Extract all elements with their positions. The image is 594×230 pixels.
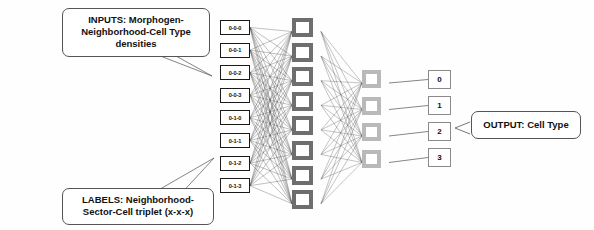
input-node-0-1-1: 0-1-1 [220,133,250,148]
input-node-0-0-2: 0-0-2 [220,65,250,80]
callout-output: OUTPUT: Cell Type [471,111,581,139]
callout-labels-line1: LABELS: Neighborhood- [82,194,194,205]
hidden1-node [292,190,313,209]
callout-labels-line2: Sector-Cell triplet (x-x-x) [69,206,207,218]
output-node-2: 2 [428,122,451,141]
hidden1-node [292,18,313,37]
output-node-1: 1 [428,96,451,115]
output-node-0: 0 [428,70,451,89]
hidden1-node [292,141,313,160]
input-node-0-1-0: 0-1-0 [220,110,250,125]
hidden1-node [292,43,313,62]
output-node-3: 3 [428,148,451,167]
callout-inputs: INPUTS: Morphogen- Neighborhood-Cell Typ… [62,8,210,57]
input-node-0-1-2: 0-1-2 [220,156,250,171]
callout-inputs-line2: Neighborhood-Cell Type densities [69,26,203,50]
hidden1-node [292,67,313,86]
hidden2-node [362,150,381,168]
hidden1-node [292,166,313,185]
hidden2-node [362,97,381,115]
input-node-0-0-3: 0-0-3 [220,88,250,103]
input-node-0-1-3: 0-1-3 [220,178,250,193]
callout-inputs-line1: INPUTS: Morphogen- [88,14,184,25]
hidden1-node [292,92,313,111]
callout-output-line1: OUTPUT: Cell Type [483,119,568,130]
hidden2-node [362,70,381,88]
hidden1-node [292,116,313,135]
input-node-0-0-1: 0-0-1 [220,43,250,58]
hidden2-node [362,123,381,141]
callout-labels: LABELS: Neighborhood- Sector-Cell triple… [62,188,214,225]
input-node-0-0-0: 0-0-0 [220,20,250,35]
